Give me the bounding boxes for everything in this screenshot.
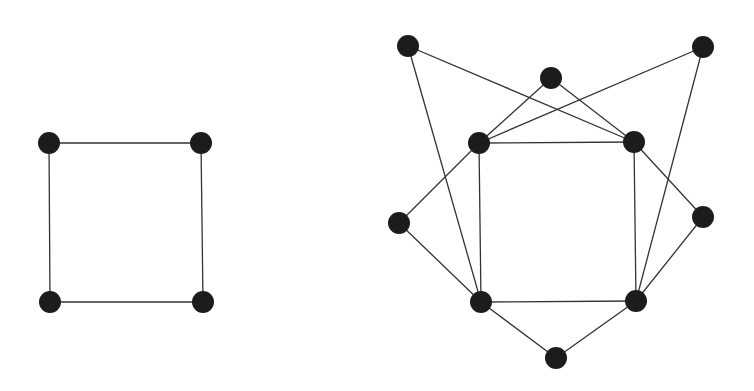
- edge-s_br-s_bl: [481, 301, 636, 302]
- edge-b_tl-s_tr: [408, 46, 634, 142]
- node-a2: [190, 132, 212, 154]
- edge-a2-a3: [201, 143, 203, 302]
- node-s_tr: [623, 131, 645, 153]
- node-s_tl: [468, 132, 490, 154]
- edge-s_bl-s_tl: [479, 143, 481, 302]
- node-b_tm: [540, 67, 562, 89]
- edge-b_tr-s_br: [636, 47, 703, 301]
- node-s_br: [625, 290, 647, 312]
- edge-s_tl-s_tr: [479, 142, 634, 143]
- extended-graph: [388, 35, 714, 369]
- edge-b_tm-s_tr: [551, 78, 634, 142]
- node-a1: [38, 132, 60, 154]
- node-b_l: [388, 212, 410, 234]
- node-b_tr: [692, 36, 714, 58]
- node-b_tl: [397, 35, 419, 57]
- edge-b_b-s_bl: [481, 302, 556, 358]
- node-s_bl: [470, 291, 492, 313]
- edge-b_r-s_br: [636, 217, 703, 301]
- edge-b_tr-s_tl: [479, 47, 703, 143]
- edge-b_b-s_br: [556, 301, 636, 358]
- edge-b_tm-s_tl: [479, 78, 551, 143]
- node-b_r: [692, 206, 714, 228]
- cycle-graph: [38, 132, 214, 313]
- graph-diagram: [0, 0, 754, 391]
- edge-b_l-s_bl: [399, 223, 481, 302]
- edge-a4-a1: [49, 143, 50, 302]
- edge-b_r-s_tr: [634, 142, 703, 217]
- edge-b_tl-s_bl: [408, 46, 481, 302]
- edge-s_tr-s_br: [634, 142, 636, 301]
- node-b_b: [545, 347, 567, 369]
- node-a4: [39, 291, 61, 313]
- node-a3: [192, 291, 214, 313]
